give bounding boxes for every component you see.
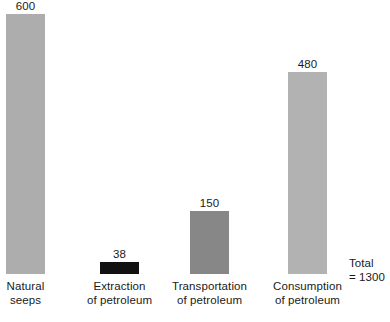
bar-value-label: 480 — [298, 58, 318, 70]
caption-line-2: seeps — [7, 294, 45, 308]
caption-line-2: of petroleum — [87, 294, 152, 308]
total-value: = 1300 — [349, 270, 385, 284]
bar-value-label: 150 — [200, 197, 220, 209]
bar-caption-transportation: Transportation of petroleum — [172, 280, 247, 307]
caption-line-1: Natural — [7, 280, 45, 294]
caption-line-1: Transportation — [172, 280, 247, 294]
caption-line-2: of petroleum — [172, 294, 247, 308]
caption-line-2: of petroleum — [273, 294, 342, 308]
bar-value-label: 38 — [113, 248, 126, 260]
total-annotation: Total = 1300 — [349, 256, 385, 284]
bar-transportation — [190, 211, 229, 274]
bar-group-consumption: 480 Consumption of petroleum — [288, 72, 327, 274]
bar-group-natural-seeps: 600 Natural seeps — [6, 14, 45, 274]
bar-natural-seeps — [6, 14, 45, 274]
bar-group-transportation: 150 Transportation of petroleum — [190, 211, 229, 274]
bar-group-extraction: 38 Extraction of petroleum — [100, 262, 139, 274]
bar-caption-extraction: Extraction of petroleum — [87, 280, 152, 307]
bar-value-label: 600 — [16, 0, 36, 12]
bar-caption-consumption: Consumption of petroleum — [273, 280, 342, 307]
caption-line-1: Consumption — [273, 280, 342, 294]
bar-extraction — [100, 262, 139, 274]
caption-line-1: Extraction — [87, 280, 152, 294]
plot-area: 600 Natural seeps 38 Extraction of petro… — [0, 0, 390, 322]
bar-chart: 600 Natural seeps 38 Extraction of petro… — [0, 0, 390, 322]
bar-caption-natural-seeps: Natural seeps — [7, 280, 45, 307]
total-label: Total — [349, 256, 385, 270]
bar-consumption — [288, 72, 327, 274]
